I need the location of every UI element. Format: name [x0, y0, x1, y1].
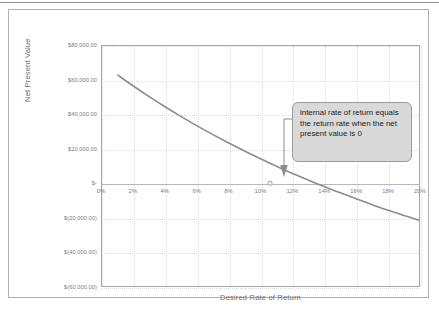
irr-point-marker	[268, 181, 272, 185]
y-tick-label-2: $40,000.00	[68, 111, 97, 117]
y-tick-label-1: $60,000.00	[68, 77, 97, 83]
x-tick-label-2: 4%	[161, 188, 170, 194]
x-tick-label-5: 10%	[255, 188, 267, 194]
y-tick-label-3: $20,000.00	[68, 146, 97, 152]
gridline-h-7	[102, 288, 419, 289]
plot-area	[101, 45, 420, 287]
chart-frame: $80,000.00$60,000.00$40,000.00$20,000.00…	[8, 9, 429, 298]
x-axis-tick-labels: 0%2%4%6%8%10%12%14%16%18%20%	[101, 188, 420, 200]
x-tick-label-4: 8%	[224, 188, 233, 194]
y-tick-label-4: $-	[92, 180, 97, 186]
x-tick-label-1: 2%	[129, 188, 138, 194]
x-tick-label-10: 20%	[414, 188, 426, 194]
x-tick-label-7: 14%	[318, 188, 330, 194]
page-top-rule	[0, 2, 439, 3]
y-axis-tick-labels: $80,000.00$60,000.00$40,000.00$20,000.00…	[29, 45, 97, 287]
npv-series-line	[102, 46, 419, 286]
x-axis-title: Desired Rate of Return	[101, 293, 420, 302]
irr-callout-box: internal rate of return equals the retur…	[292, 102, 412, 162]
gridline-v-10	[421, 46, 422, 286]
y-tick-label-7: $(60,000.00)	[64, 284, 97, 290]
x-tick-label-6: 12%	[286, 188, 298, 194]
y-tick-label-0: $80,000.00	[68, 42, 97, 48]
x-tick-label-3: 6%	[192, 188, 201, 194]
y-tick-label-5: $(20,000.00)	[64, 215, 97, 221]
y-axis-title: Net Present Value	[23, 38, 32, 102]
x-tick-label-0: 0%	[97, 188, 106, 194]
x-tick-label-9: 18%	[382, 188, 394, 194]
x-tick-label-8: 16%	[350, 188, 362, 194]
y-tick-label-6: $(40,000.00)	[64, 249, 97, 255]
